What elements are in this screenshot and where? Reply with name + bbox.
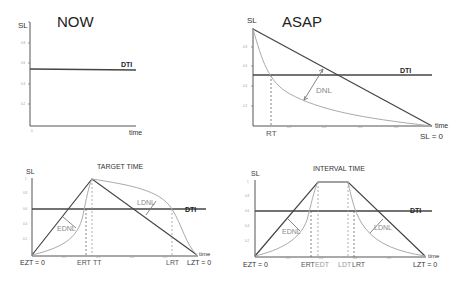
svg-text:0.8: 0.8 xyxy=(243,45,248,49)
svg-text:0.8: 0.8 xyxy=(21,41,26,45)
dti-label: DTI xyxy=(185,206,196,213)
svg-text:0.6: 0.6 xyxy=(245,209,250,213)
svg-text:0.4: 0.4 xyxy=(21,82,26,86)
lrt-label: LRT xyxy=(352,261,366,268)
svg-text:0.2: 0.2 xyxy=(286,256,291,260)
svg-text:0.2: 0.2 xyxy=(287,125,292,129)
ert-label: ERT xyxy=(77,259,92,266)
svg-text:0.4: 0.4 xyxy=(319,256,324,260)
edt-label: EDT xyxy=(315,261,330,268)
y-axis-label: SL xyxy=(18,21,28,30)
y-axis-label: SL xyxy=(251,170,260,177)
svg-text:1: 1 xyxy=(25,177,27,181)
svg-text:0.2: 0.2 xyxy=(21,102,26,106)
svg-text:0: 0 xyxy=(31,129,33,133)
ednl-label: EDNL xyxy=(57,225,76,232)
ert-label: ERT xyxy=(301,261,316,268)
dti-label: DTI xyxy=(400,67,411,74)
x-axis-label: time xyxy=(435,122,448,129)
svg-text:0.4: 0.4 xyxy=(245,224,250,228)
svg-text:0.2: 0.2 xyxy=(245,239,250,243)
lzt-label: LZT = 0 xyxy=(187,259,211,266)
sl-zero-label: SL = 0 xyxy=(420,132,444,141)
y-ticks: 0.8 0.6 0.4 0.2 0 xyxy=(21,22,33,133)
panel-asap: ASAP SL 0.8 0.6 0.4 0.2 0.2 0.4 0.6 0.8 … xyxy=(243,13,448,141)
ldnl-label: LDNL xyxy=(374,224,392,231)
svg-text:0.4: 0.4 xyxy=(243,84,248,88)
ldnl-label: LDNL xyxy=(137,199,155,206)
x-axis-label: time xyxy=(129,129,142,136)
svg-text:0.6: 0.6 xyxy=(358,125,363,129)
panel-now-title: NOW xyxy=(57,13,95,30)
lrt-label: LRT xyxy=(166,259,180,266)
svg-text:0.2: 0.2 xyxy=(62,255,67,259)
ednl-label: EDNL xyxy=(282,228,301,235)
svg-text:0.8: 0.8 xyxy=(387,256,392,260)
svg-text:0.6: 0.6 xyxy=(243,64,248,68)
lzt-label: LZT = 0 xyxy=(413,261,437,268)
svg-text:0.4: 0.4 xyxy=(23,222,28,226)
svg-text:0.2: 0.2 xyxy=(23,237,28,241)
linear-decay-line xyxy=(253,29,432,126)
ldt-label: LDT xyxy=(338,261,352,268)
dti-label: DTI xyxy=(121,61,132,68)
svg-text:0.4: 0.4 xyxy=(322,125,327,129)
svg-text:0.8: 0.8 xyxy=(245,194,250,198)
ezt-label: EZT = 0 xyxy=(243,261,268,268)
x-axis-label: time xyxy=(199,251,211,257)
svg-text:0.8: 0.8 xyxy=(394,125,399,129)
panel-interval-title: INTERVAL TIME xyxy=(313,165,365,172)
diagram-canvas: NOW SL 0.8 0.6 0.4 0.2 0 DTI time ASAP S… xyxy=(0,0,459,281)
svg-text:0.6: 0.6 xyxy=(23,207,28,211)
x-axis-label: time xyxy=(428,253,440,259)
dti-label: DTI xyxy=(410,207,421,214)
rt-label: RT xyxy=(266,129,277,138)
svg-text:0.2: 0.2 xyxy=(243,104,248,108)
svg-text:1: 1 xyxy=(247,180,249,184)
panel-now: NOW SL 0.8 0.6 0.4 0.2 0 DTI time xyxy=(18,13,142,136)
dnl-arrow xyxy=(304,69,323,100)
dnl-label: DNL xyxy=(316,86,333,95)
svg-text:0.6: 0.6 xyxy=(21,61,26,65)
panel-target-title: TARGET TIME xyxy=(97,163,144,170)
svg-text:0.8: 0.8 xyxy=(23,191,28,195)
y-axis-label: SL xyxy=(247,16,257,25)
svg-text:0.6: 0.6 xyxy=(130,255,135,259)
interval-trapezoid xyxy=(255,182,425,256)
tt-label: TT xyxy=(93,259,102,266)
panel-target-time: TARGET TIME SL 1 0.8 0.6 0.4 0.2 0.2 0.4… xyxy=(20,163,211,266)
y-axis-label: SL xyxy=(26,168,35,175)
dti-line xyxy=(30,69,136,70)
panel-asap-title: ASAP xyxy=(282,13,322,30)
ezt-label: EZT = 0 xyxy=(20,259,45,266)
panel-interval-time: INTERVAL TIME SL 1 0.8 0.6 0.4 0.2 0.2 0… xyxy=(243,165,440,268)
